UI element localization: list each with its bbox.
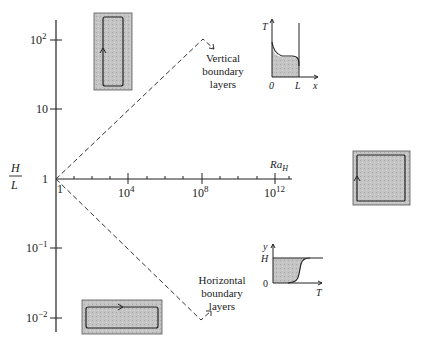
svg-text:Horizontal: Horizontal bbox=[198, 274, 245, 286]
horizontal-boundary-dashed-line bbox=[56, 179, 211, 320]
inset-zero-label: 0 bbox=[263, 278, 268, 289]
y-axis-label: H L bbox=[9, 161, 22, 192]
vertical-boundary-layers-label: Vertical boundary layers bbox=[202, 52, 244, 90]
x-axis bbox=[56, 173, 292, 184]
inset-x-label: x bbox=[312, 80, 318, 91]
tall-enclosure bbox=[94, 13, 132, 90]
y-tick-label-0.1: 10−1 bbox=[26, 239, 48, 255]
horizontal-boundary-layers-label: Horizontal boundary layers bbox=[198, 274, 245, 312]
regime-diagram: 102 10 1 10−1 10−2 H L 1 104 108 1012 Ra… bbox=[0, 0, 422, 346]
svg-text:Vertical: Vertical bbox=[206, 52, 240, 64]
svg-text:layers: layers bbox=[210, 78, 236, 90]
inset-x-end: L bbox=[294, 80, 301, 91]
x-axis-label: RaH bbox=[269, 158, 289, 173]
inset-x-start: 0 bbox=[269, 80, 274, 91]
y-tick-label-100: 102 bbox=[30, 31, 47, 47]
svg-text:boundary: boundary bbox=[202, 65, 244, 77]
square-enclosure bbox=[353, 151, 410, 205]
vertical-boundary-dashed-line bbox=[56, 39, 214, 179]
shallow-enclosure bbox=[82, 300, 162, 334]
inset-y-label: y bbox=[262, 241, 268, 252]
x-tick-label-1e8: 108 bbox=[192, 184, 209, 200]
svg-text:layers: layers bbox=[209, 300, 235, 312]
x-tick-label-1e12: 1012 bbox=[264, 184, 285, 200]
horizontal-profile-inset: y H 0 T bbox=[260, 241, 323, 298]
y-tick-label-0.01: 10−2 bbox=[26, 309, 48, 325]
inset-t-label: T bbox=[262, 21, 269, 32]
x-origin-label: 1 bbox=[57, 182, 63, 196]
vertical-profile-inset: T 0 L x bbox=[262, 19, 318, 91]
y-axis-label-denominator: L bbox=[10, 178, 18, 192]
y-axis bbox=[50, 20, 62, 332]
inset-h-label: H bbox=[260, 253, 269, 264]
y-axis-label-numerator: H bbox=[10, 161, 21, 175]
x-tick-label-1e4: 104 bbox=[118, 184, 135, 200]
inset-t-axis-label: T bbox=[316, 287, 323, 298]
y-tick-label-10: 10 bbox=[36, 102, 48, 116]
svg-text:boundary: boundary bbox=[201, 287, 243, 299]
y-tick-label-1: 1 bbox=[42, 172, 48, 186]
